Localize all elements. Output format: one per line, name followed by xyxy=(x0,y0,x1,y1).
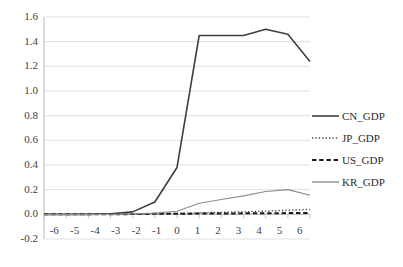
legend-item-kr_gdp[interactable]: KR_GDP xyxy=(312,173,403,191)
x-tick-label: -6 xyxy=(44,222,64,240)
x-tick-label: 4 xyxy=(249,222,269,240)
x-tick-label: -5 xyxy=(64,222,84,240)
y-tick-label: 1.6 xyxy=(8,11,38,22)
y-tick-label: 1.4 xyxy=(8,36,38,47)
x-tick-label: 1 xyxy=(187,222,207,240)
series-line-cn_gdp xyxy=(44,29,310,214)
x-tick-label: 2 xyxy=(208,222,228,240)
legend-label: CN_GDP xyxy=(342,111,385,122)
x-axis-tick-labels: -6-5-4-3-2-10123456 xyxy=(44,222,310,240)
axis-lines xyxy=(44,17,310,239)
series-line-kr_gdp xyxy=(44,190,310,215)
chart-legend: CN_GDPJP_GDPUS_GDPKR_GDP xyxy=(312,107,403,195)
y-tick-label: 0.2 xyxy=(8,184,38,195)
data-series-group xyxy=(44,29,310,214)
chart-container: 1.61.41.21.00.80.60.40.20.0-0.2 -6-5-4-3… xyxy=(0,0,403,267)
y-tick-label: 1.2 xyxy=(8,60,38,71)
y-tick-label: 1.0 xyxy=(8,85,38,96)
x-tick-label: -3 xyxy=(105,222,125,240)
y-tick-label: -0.2 xyxy=(8,233,38,244)
y-axis-tick-labels: 1.61.41.21.00.80.60.40.20.0-0.2 xyxy=(6,0,38,267)
y-tick-label: 0.4 xyxy=(8,159,38,170)
y-tick-label: 0.6 xyxy=(8,134,38,145)
legend-item-cn_gdp[interactable]: CN_GDP xyxy=(312,107,403,125)
gridlines xyxy=(44,17,310,239)
legend-swatch-kr_gdp-icon xyxy=(312,177,339,187)
legend-swatch-jp_gdp-icon xyxy=(312,133,339,143)
legend-item-jp_gdp[interactable]: JP_GDP xyxy=(312,129,403,147)
x-tick-label: 0 xyxy=(167,222,187,240)
x-tick-label: 5 xyxy=(269,222,289,240)
legend-label: JP_GDP xyxy=(342,133,380,144)
legend-swatch-cn_gdp-icon xyxy=(312,111,339,121)
y-tick-label: 0.0 xyxy=(8,208,38,219)
legend-item-us_gdp[interactable]: US_GDP xyxy=(312,151,403,169)
x-tick-label: -2 xyxy=(126,222,146,240)
x-tick-label: -1 xyxy=(146,222,166,240)
legend-label: KR_GDP xyxy=(342,177,385,188)
legend-label: US_GDP xyxy=(342,155,384,166)
x-tick-label: 3 xyxy=(228,222,248,240)
x-tick-label: 6 xyxy=(290,222,310,240)
y-tick-label: 0.8 xyxy=(8,110,38,121)
x-tick-label: -4 xyxy=(85,222,105,240)
legend-swatch-us_gdp-icon xyxy=(312,155,339,165)
